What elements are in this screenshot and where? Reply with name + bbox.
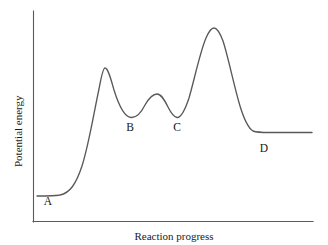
x-axis-title: Reaction progress [134,230,213,242]
point-label-b: B [126,121,134,133]
chart-canvas: Potential energy Reaction progress A B C… [0,0,328,245]
potential-energy-diagram: Potential energy Reaction progress A B C… [0,0,328,245]
point-label-c: C [173,121,181,133]
plot-background [0,0,328,245]
point-label-a: A [44,195,53,207]
y-axis-title: Potential energy [12,95,24,167]
point-label-d: D [260,142,268,154]
